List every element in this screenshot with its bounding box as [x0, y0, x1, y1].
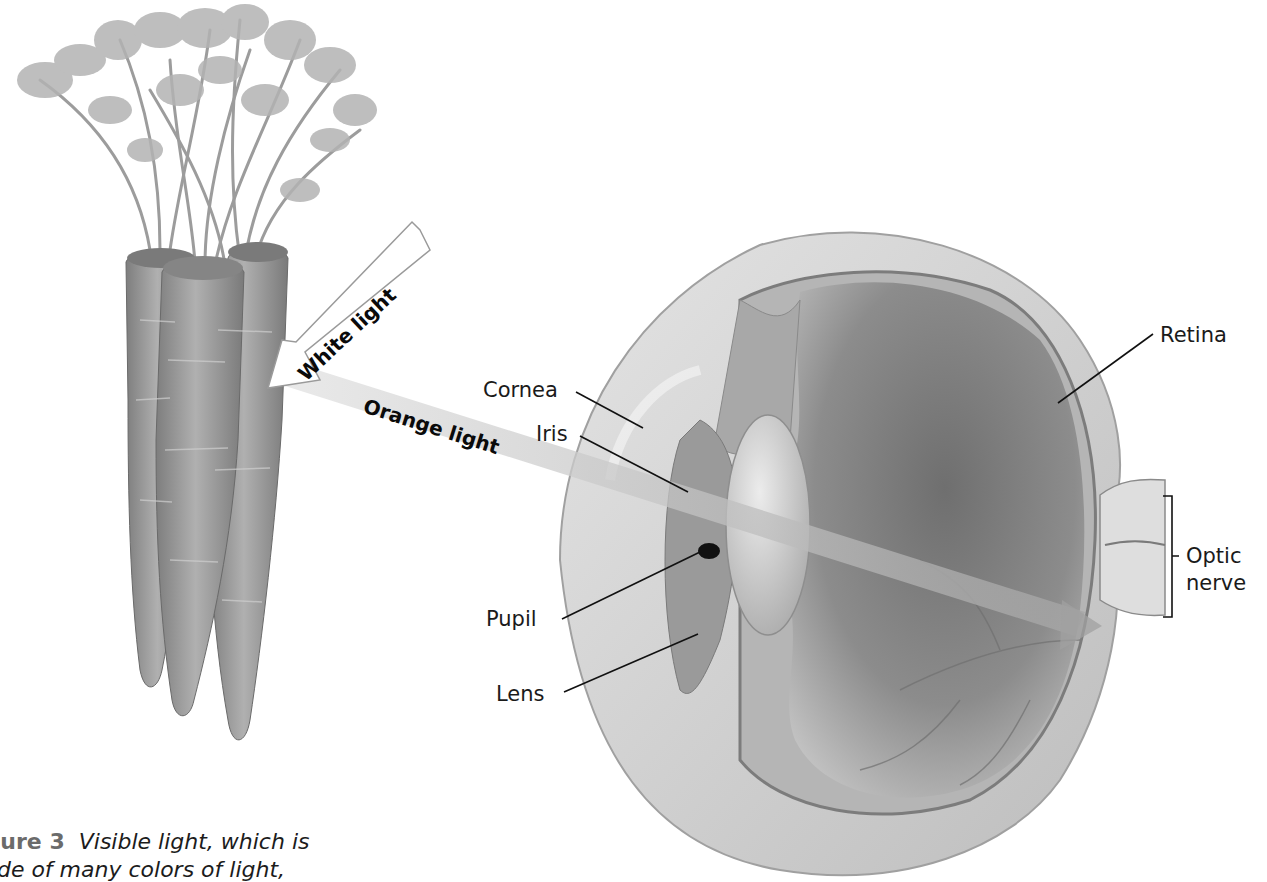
lens-label: Lens [496, 682, 545, 706]
caption-line-1: Figure 3Visible light, which is [0, 828, 309, 856]
iris-label: Iris [536, 422, 568, 446]
pupil-label: Pupil [486, 607, 537, 631]
figure-number: Figure 3 [0, 829, 65, 854]
white-light-arrow [268, 222, 430, 388]
carrots [126, 242, 288, 740]
optic-nerve-label-line1: Optic [1186, 544, 1241, 568]
optic-nerve [1100, 479, 1165, 615]
cornea-label: Cornea [483, 378, 558, 402]
figure-canvas: White light Orange light Cornea Iris Pup… [0, 0, 1267, 882]
retina-label: Retina [1160, 323, 1227, 347]
diagram-svg: White light Orange light Cornea Iris Pup… [0, 0, 1267, 882]
caption-line-2: made of many colors of light, [0, 856, 309, 882]
optic-nerve-label-line2: nerve [1186, 571, 1246, 595]
caption-text-2: made of many colors of light, [0, 857, 285, 882]
pupil [698, 543, 720, 559]
figure-caption: Figure 3Visible light, which is made of … [0, 828, 309, 882]
caption-text-1: Visible light, which is [79, 829, 310, 854]
